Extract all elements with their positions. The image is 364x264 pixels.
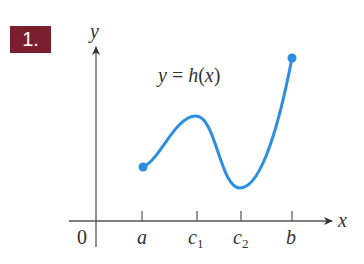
function-label: y = h(x) bbox=[156, 64, 220, 87]
x-axis-label: x bbox=[337, 209, 347, 231]
function-label-equals: = bbox=[167, 64, 188, 86]
tick-label-c2: c2 bbox=[233, 226, 248, 251]
tick-label-a: a bbox=[137, 226, 147, 248]
function-label-y: y bbox=[156, 64, 167, 87]
function-label-h: h bbox=[188, 64, 198, 86]
endpoint-a-dot bbox=[139, 163, 148, 172]
tick-label-c2-letter: c bbox=[233, 226, 242, 248]
endpoint-b-dot bbox=[288, 54, 297, 63]
origin-label: 0 bbox=[77, 226, 87, 248]
function-label-x: x bbox=[204, 64, 214, 86]
tick-label-c2-subscript: 2 bbox=[242, 236, 249, 251]
function-label-close-paren: ) bbox=[214, 64, 221, 87]
function-graph: y x 0 a c1 c2 b y = h(x) bbox=[0, 0, 364, 264]
y-axis-label: y bbox=[88, 20, 99, 43]
tick-label-b: b bbox=[286, 226, 296, 248]
tick-label-c1-subscript: 1 bbox=[197, 236, 204, 251]
tick-label-c1: c1 bbox=[188, 226, 203, 251]
tick-label-c1-letter: c bbox=[188, 226, 197, 248]
